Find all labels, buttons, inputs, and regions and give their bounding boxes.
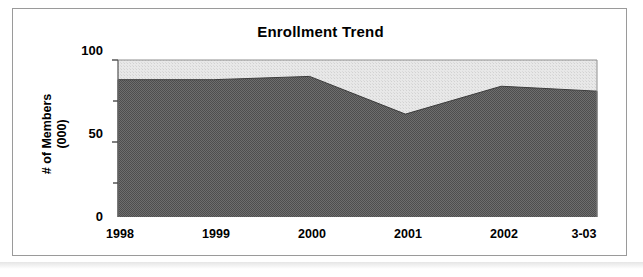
x-axis-tick-labels: 1998 1999 2000 2001 2002 3-03 <box>106 227 598 249</box>
x-tick-label-1999: 1999 <box>202 227 230 241</box>
x-tick-label-3-03: 3-03 <box>571 227 596 241</box>
y-axis-ticks <box>112 60 118 217</box>
chart-title: Enrollment Trend <box>13 23 628 40</box>
x-tick-label-2000: 2000 <box>298 227 326 241</box>
series-area-members <box>118 76 597 217</box>
plot-area <box>106 51 598 217</box>
y-tick-label-0: 0 <box>69 209 103 224</box>
chart-frame: Enrollment Trend # of Members (000) 100 … <box>12 8 627 256</box>
scan-artifact-band <box>0 262 643 269</box>
y-tick-label-50: 50 <box>69 126 103 141</box>
area-chart-svg <box>106 51 598 217</box>
x-tick-label-2002: 2002 <box>490 227 518 241</box>
chart-screenshot: Enrollment Trend # of Members (000) 100 … <box>0 0 643 277</box>
x-tick-label-2001: 2001 <box>394 227 422 241</box>
x-tick-label-1998: 1998 <box>106 227 134 241</box>
y-axis-tick-labels: 100 50 0 <box>65 51 103 217</box>
y-tick-label-100: 100 <box>69 43 103 58</box>
